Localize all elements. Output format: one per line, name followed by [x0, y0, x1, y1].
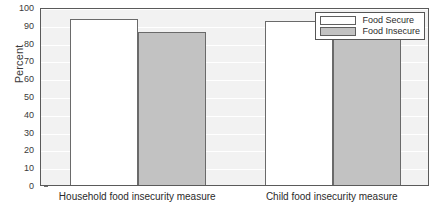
y-tick-label-70: 70	[12, 57, 34, 66]
bar-chart: Percent 0102030405060708090100 Food Secu…	[0, 0, 442, 212]
y-tick-label-80: 80	[12, 39, 34, 48]
y-tick-label-10: 10	[12, 164, 34, 173]
legend-swatch-food-insecure	[320, 27, 356, 36]
chart-legend: Food Secure Food Insecure	[315, 12, 425, 40]
legend-label-food-secure: Food Secure	[362, 16, 414, 25]
y-tick-label-60: 60	[12, 75, 34, 84]
y-tick-label-30: 30	[12, 128, 34, 137]
bar-food-insecure-group-2	[333, 34, 401, 185]
x-axis-labels: Household food insecurity measureChild f…	[40, 191, 429, 207]
bar-food-insecure-group-1	[138, 32, 206, 185]
y-tick-label-20: 20	[12, 146, 34, 155]
y-tick-label-100: 100	[12, 4, 34, 13]
legend-item-food-secure: Food Secure	[320, 16, 420, 25]
legend-item-food-insecure: Food Insecure	[320, 27, 420, 36]
y-tick-label-40: 40	[12, 110, 34, 119]
y-tick-label-90: 90	[12, 21, 34, 30]
y-tick-label-0: 0	[12, 182, 34, 191]
y-tick-mark-0	[44, 186, 48, 187]
legend-label-food-insecure: Food Insecure	[362, 27, 420, 36]
plot-area: Food Secure Food Insecure	[40, 8, 429, 186]
gridline-100	[41, 9, 428, 10]
y-tick-label-50: 50	[12, 93, 34, 102]
y-axis-ticks: 0102030405060708090100	[10, 0, 34, 212]
legend-swatch-food-secure	[320, 16, 356, 25]
bar-food-secure-group-2	[265, 21, 333, 185]
x-axis-label-1: Household food insecurity measure	[59, 191, 216, 203]
bar-food-secure-group-1	[70, 19, 138, 185]
x-axis-label-2: Child food insecurity measure	[266, 191, 398, 203]
